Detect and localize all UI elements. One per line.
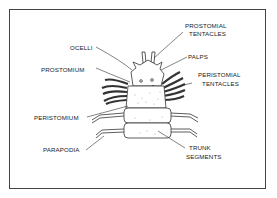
label-ocelli: OCELLI	[70, 44, 93, 51]
label-peristomial-tentacles-1: PERISTOMIAL	[198, 71, 241, 78]
label-palps: PALPS	[188, 53, 208, 60]
left-peristomial-tentacles	[102, 80, 128, 105]
label-peristomium: PERISTOMIUM	[34, 114, 79, 121]
peristomium-shape	[126, 86, 166, 108]
label-prostomium: PROSTOMIUM	[41, 66, 85, 73]
parapodia-left	[92, 113, 124, 138]
label-parapodia: PARAPODIA	[43, 146, 80, 153]
label-trunk-segments-2: SEGMENTS	[186, 153, 222, 160]
label-trunk-segments-1: TRUNK	[189, 144, 211, 151]
right-peristomial-tentacles	[162, 72, 185, 100]
label-peristomial-tentacles-2: TENTACLES	[202, 80, 239, 87]
label-prostomial-tentacles-2: TENTACLES	[189, 30, 226, 37]
label-prostomial-tentacles-1: PROSTOMIAL	[185, 22, 226, 29]
trunk-segment-1	[124, 108, 171, 123]
trunk-segment-2	[124, 123, 171, 138]
prostomium-shape	[131, 60, 164, 86]
parapodia-right	[170, 113, 198, 137]
worm-illustration	[0, 0, 277, 198]
